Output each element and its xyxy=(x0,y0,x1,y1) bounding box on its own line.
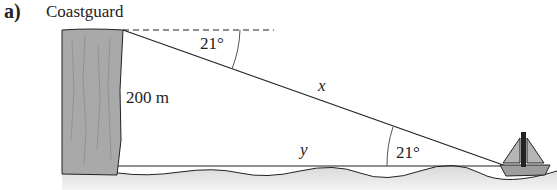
cliff xyxy=(62,29,123,175)
line-of-sight-x xyxy=(123,30,506,166)
part-label: a) xyxy=(4,0,21,23)
boat xyxy=(500,132,550,176)
angle-depression-label: 21° xyxy=(200,34,224,54)
height-label: 200 m xyxy=(126,88,169,108)
angle-elevation-label: 21° xyxy=(396,143,420,163)
angle-arc-depression xyxy=(232,30,240,69)
title-coastguard: Coastguard xyxy=(46,2,123,22)
angle-arc-elevation xyxy=(387,127,393,166)
hypotenuse-label: x xyxy=(318,76,326,96)
base-label: y xyxy=(300,140,308,160)
diagram-canvas xyxy=(0,0,557,190)
